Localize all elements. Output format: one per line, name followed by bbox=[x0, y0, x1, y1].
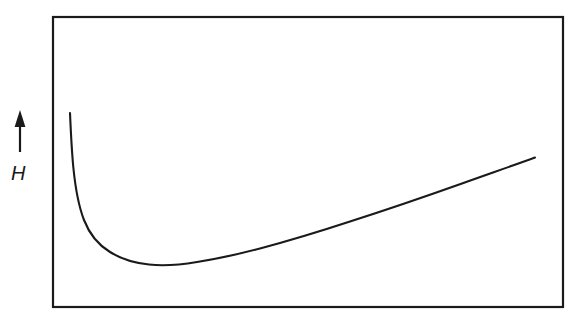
figure-background bbox=[0, 0, 574, 325]
y-axis-label: H bbox=[11, 163, 25, 183]
van-deemter-figure bbox=[0, 0, 574, 325]
